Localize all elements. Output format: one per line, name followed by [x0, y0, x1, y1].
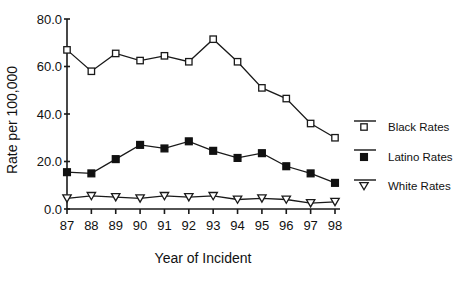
- marker-open-square: [137, 57, 143, 63]
- legend-item-latino-rates[interactable]: Latino Rates: [354, 150, 453, 163]
- series-layer: [63, 36, 339, 207]
- chart-legend: Black RatesLatino RatesWhite Rates: [354, 121, 453, 192]
- marker-open-square: [210, 36, 216, 42]
- y-tick-label: 40.0: [37, 107, 62, 122]
- marker-filled-square: [361, 154, 368, 161]
- x-tick-label: 96: [279, 218, 293, 233]
- marker-filled-square: [64, 169, 71, 176]
- y-tick-label: 20.0: [37, 154, 62, 169]
- marker-filled-square: [210, 147, 217, 154]
- x-tick-label: 90: [133, 218, 147, 233]
- legend-label: Black Rates: [388, 121, 450, 133]
- series-path: [67, 39, 335, 138]
- y-tick-label: 0.0: [44, 202, 62, 217]
- marker-filled-square: [234, 155, 241, 162]
- marker-open-square: [307, 120, 313, 126]
- y-tick-label: 60.0: [37, 59, 62, 74]
- legend-label: Latino Rates: [388, 151, 453, 163]
- x-tick-label: 88: [84, 218, 98, 233]
- marker-filled-square: [332, 179, 339, 186]
- marker-filled-square: [88, 170, 95, 177]
- y-axis-title: Rate per 100,000: [4, 66, 20, 174]
- marker-filled-square: [185, 138, 192, 145]
- marker-open-square: [283, 95, 289, 101]
- marker-open-square: [161, 53, 167, 59]
- series-path: [67, 141, 335, 183]
- marker-open-triangle-down: [360, 183, 368, 190]
- y-tick-label: 80.0: [37, 12, 62, 27]
- x-tick-label: 93: [206, 218, 220, 233]
- legend-item-white-rates[interactable]: White Rates: [354, 180, 451, 192]
- marker-filled-square: [112, 156, 119, 163]
- marker-filled-square: [283, 163, 290, 170]
- marker-open-square: [332, 135, 338, 141]
- x-tick-label: 98: [328, 218, 342, 233]
- y-axis-tick-labels: 0.020.040.060.080.0: [37, 12, 62, 217]
- marker-open-square: [113, 50, 119, 56]
- series-white-rates: [63, 192, 339, 206]
- series-latino-rates: [64, 138, 339, 186]
- x-tick-label: 94: [230, 218, 244, 233]
- legend-item-black-rates[interactable]: Black Rates: [354, 121, 450, 133]
- marker-open-square: [259, 85, 265, 91]
- x-axis-title: Year of Incident: [155, 250, 252, 266]
- x-tick-label: 87: [60, 218, 74, 233]
- x-tick-label: 89: [108, 218, 122, 233]
- marker-open-square: [234, 59, 240, 65]
- series-black-rates: [64, 36, 338, 141]
- x-tick-label: 97: [303, 218, 317, 233]
- marker-open-square: [64, 47, 70, 53]
- marker-filled-square: [137, 141, 144, 148]
- legend-label: White Rates: [388, 180, 451, 192]
- line-chart: Rate per 100,000 0.020.040.060.080.0 878…: [0, 0, 454, 285]
- series-path: [67, 196, 335, 203]
- marker-filled-square: [307, 170, 314, 177]
- chart-figure: Rate per 100,000 0.020.040.060.080.0 878…: [0, 0, 454, 285]
- x-tick-label: 92: [182, 218, 196, 233]
- marker-filled-square: [259, 150, 266, 157]
- x-axis-tick-labels: 878889909192939495969798: [60, 218, 342, 233]
- marker-open-square: [361, 124, 367, 130]
- marker-filled-square: [161, 145, 168, 152]
- x-tick-label: 95: [255, 218, 269, 233]
- marker-open-square: [88, 68, 94, 74]
- marker-open-square: [186, 59, 192, 65]
- x-tick-label: 91: [157, 218, 171, 233]
